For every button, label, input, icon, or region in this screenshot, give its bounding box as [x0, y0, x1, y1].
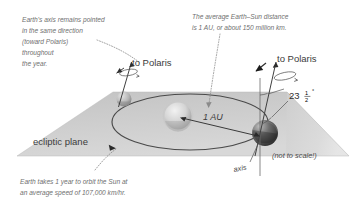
- tilt-whole-number: 23: [289, 90, 300, 101]
- earth-far-body: [117, 92, 132, 107]
- label-tilt-angle: 23 1 2 °: [289, 88, 314, 103]
- sun-body: [164, 102, 193, 132]
- label-ecliptic-plane: ecliptic plane: [33, 136, 88, 147]
- caption-au-line-1: The average Earth–Sun distance: [192, 13, 289, 21]
- caption-speed-line-2: an average speed of 107,000 km/hr.: [20, 189, 126, 197]
- astronomy-diagram-svg: Earth's axis remains pointed in the same…: [0, 0, 350, 204]
- label-to-polaris-left: to Polaris: [132, 57, 172, 68]
- caption-axis-line-5: the year.: [22, 60, 48, 68]
- caption-speed-line-1: Earth takes 1 year to orbit the Sun at: [20, 178, 129, 186]
- caption-axis-line-4: throughout: [22, 49, 55, 57]
- caption-au-distance: The average Earth–Sun distance is 1 AU, …: [192, 13, 289, 31]
- caption-axis-pointing: Earth's axis remains pointed in the same…: [22, 16, 105, 68]
- label-axis: axis: [233, 163, 248, 174]
- caption-orbit-speed: Earth takes 1 year to orbit the Sun at a…: [20, 178, 129, 197]
- caption-au-line-2: is 1 AU, or about 150 million km.: [192, 24, 287, 31]
- caption-axis-line-3: (toward Polaris): [22, 38, 68, 46]
- caption-axis-line-1: Earth's axis remains pointed: [22, 16, 105, 24]
- label-to-polaris-right: to Polaris: [277, 53, 317, 64]
- diagram-canvas: Earth's axis remains pointed in the same…: [0, 0, 350, 204]
- caption-axis-line-2: in the same direction: [22, 27, 83, 34]
- tilt-degree-symbol: °: [312, 88, 314, 94]
- label-one-au: 1 AU: [203, 112, 223, 122]
- label-not-to-scale: (not to scale!): [272, 151, 317, 160]
- tilt-fraction-denominator: 2: [305, 97, 308, 103]
- tilt-fraction-numerator: 1: [305, 90, 308, 96]
